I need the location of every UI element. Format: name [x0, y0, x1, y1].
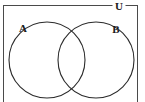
set-a-label: A [19, 22, 27, 34]
set-b-label: B [112, 23, 120, 35]
venn-diagram-canvas: U A B [0, 0, 145, 102]
universal-set-label: U [115, 0, 123, 12]
venn-diagram-figure: U A B [0, 0, 145, 102]
